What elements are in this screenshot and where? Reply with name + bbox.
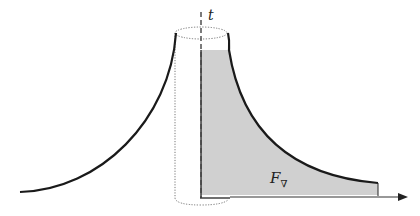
arrow-right-icon (398, 193, 408, 201)
t-axis-label: t (208, 7, 214, 23)
cylinder-bottom-rim (175, 198, 228, 205)
shaded-region-f-nabla (201, 50, 378, 195)
left-curve (20, 33, 176, 192)
diagram-canvas: t F∇ (0, 0, 420, 216)
